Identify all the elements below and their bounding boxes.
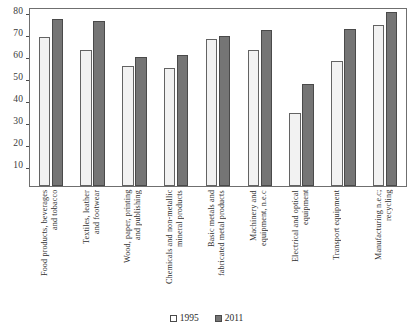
bar-1995 [373,25,385,186]
legend-swatch-icon [215,315,222,322]
x-axis-label: Wood, paper, printing and publishing [123,190,143,300]
bar-group [164,8,189,186]
legend-label: 2011 [225,314,244,324]
y-axis-tick-label: 10 [13,161,23,171]
bar-1995 [164,68,176,186]
bar-1995 [206,39,218,186]
bar-group [206,8,231,186]
legend-swatch-icon [170,315,177,322]
y-axis-tick-label: 60 [13,51,23,61]
bar-1995 [80,50,92,186]
legend-label: 1995 [180,314,199,324]
x-axis-label: Food products, beverages and tobacco [40,190,60,300]
y-axis-tick-label: 20 [13,139,23,149]
bar-1995 [39,37,51,186]
chart-legend: 19952011 [0,314,413,324]
bar-group [331,8,356,186]
x-axis-label: Machinery and equipment, n.e.c [249,190,269,300]
bar-group [39,8,64,186]
x-axis-label: Electrical and optical equipment [291,190,311,300]
plot-area [30,8,406,186]
bar-2011 [52,19,64,186]
bar-group [248,8,273,186]
bar-2011 [93,21,105,186]
bar-1995 [289,113,301,186]
bar-2011 [386,12,398,186]
bar-group [122,8,147,186]
bar-1995 [122,66,134,186]
y-axis-tick-label: 50 [13,73,23,83]
y-axis: 1020304050607080 [0,14,30,190]
bar-chart: 1020304050607080 Food products, beverage… [0,0,413,333]
y-axis-tick-label: 30 [13,117,23,127]
bar-group [80,8,105,186]
x-axis-label: Textiles, leather and footwear [82,190,102,300]
bar-1995 [331,61,343,186]
x-axis-label: Manufacturing n.e.c; recycling [374,190,394,300]
x-axis-labels: Food products, beverages and tobaccoText… [30,190,406,302]
bar-2011 [219,36,231,186]
bar-2011 [302,84,314,186]
x-axis-label: Chemicals and non-metallic mineral produ… [165,190,185,300]
legend-item: 2011 [215,314,244,324]
y-axis-tick-label: 80 [13,7,23,17]
bar-group [289,8,314,186]
x-axis-label: Basic metals and fabricated metal produc… [207,190,227,300]
y-axis-tick-label: 40 [13,95,23,105]
bar-2011 [135,57,147,186]
legend-item: 1995 [170,314,199,324]
y-axis-tick-label: 70 [13,29,23,39]
bar-2011 [344,29,356,186]
bar-2011 [177,55,189,186]
bar-1995 [248,50,260,186]
bar-group [373,8,398,186]
bar-2011 [261,30,273,186]
x-axis-label: Transport equipment [332,190,342,300]
